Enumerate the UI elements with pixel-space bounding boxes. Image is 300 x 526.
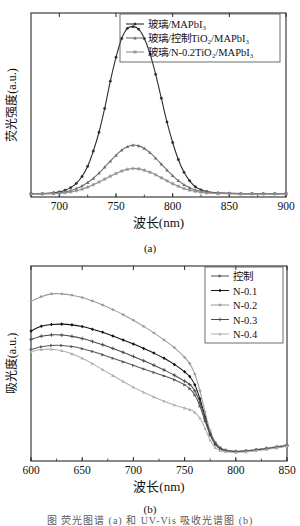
series-marker: [92, 150, 94, 152]
series-marker: [205, 191, 209, 195]
legend-label: N-0.1: [233, 286, 257, 297]
series-marker: [137, 167, 141, 171]
panel-a-caption: (a): [0, 242, 300, 255]
series-marker: [154, 173, 158, 177]
series-marker: [137, 28, 139, 30]
series-marker: [142, 325, 144, 327]
series-marker: [250, 192, 254, 196]
series-marker: [176, 184, 180, 188]
x-tick-label: 650: [74, 464, 92, 476]
series-marker: [122, 314, 124, 316]
legend-label: N-0.4: [233, 329, 258, 340]
series-marker: [29, 192, 33, 196]
series-marker: [171, 182, 175, 186]
series-marker: [109, 80, 111, 82]
series-marker: [61, 293, 63, 295]
x-tick-label: 850: [221, 200, 239, 212]
x-tick-label: 800: [227, 464, 245, 476]
series-marker: [239, 192, 243, 196]
series-marker: [81, 296, 83, 298]
series-marker: [86, 185, 90, 189]
series-marker: [171, 141, 173, 143]
series-marker: [163, 339, 165, 341]
series-marker: [50, 293, 52, 295]
series-marker: [74, 189, 78, 193]
x-tick-label: 700: [125, 464, 143, 476]
series-marker: [131, 167, 135, 171]
series-marker: [199, 190, 203, 194]
legend-marker: [134, 23, 136, 25]
series-marker: [261, 192, 265, 196]
series-marker: [273, 192, 277, 196]
series-marker: [125, 168, 129, 172]
footer-label: 图 荧光图谱 (a) 和 UV-Vis 吸收光谱图 (b): [47, 515, 254, 526]
series-marker: [69, 190, 73, 194]
series-marker: [166, 121, 168, 123]
pl-spectrum-chart: 700750800850900波长(nm)荧光强度(a.u.)玻璃/MAPbI₃…: [0, 0, 300, 242]
legend-label: N-0.2: [233, 300, 257, 311]
series-marker: [91, 300, 93, 302]
x-axis-label: 波长(nm): [133, 215, 184, 230]
series-marker: [103, 177, 107, 181]
page-footer-text: 图 荧光图谱 (a) 和 UV-Vis 吸收光谱图 (b): [0, 515, 300, 526]
x-tick-label: 800: [164, 200, 182, 212]
series-marker: [112, 308, 114, 310]
series-marker: [108, 174, 112, 178]
series-marker: [154, 73, 156, 75]
series-marker: [148, 170, 152, 174]
y-axis-label: 荧光强度(a.u.): [4, 68, 19, 141]
series-marker: [57, 191, 61, 195]
series-marker: [126, 27, 128, 29]
series-marker: [52, 192, 56, 196]
legend-label: 玻璃/控制TiO₂/MAPbI₃: [148, 32, 250, 44]
series-marker: [194, 373, 196, 375]
series-marker: [183, 171, 185, 173]
series-marker: [284, 192, 288, 196]
series-marker: [159, 176, 163, 180]
series-marker: [183, 356, 185, 358]
series-marker: [227, 192, 231, 196]
series-marker: [30, 300, 32, 302]
x-tick-label: 750: [107, 200, 125, 212]
series-marker: [40, 192, 44, 196]
series-marker: [132, 319, 134, 321]
x-tick-label: 850: [278, 464, 296, 476]
series-marker: [71, 294, 73, 296]
series-marker: [86, 165, 88, 167]
series-marker: [165, 179, 169, 183]
figure-panel-b: 600650700750800850波长(nm)吸光度(a.u.)控制N-0.1…: [0, 258, 300, 526]
series-marker: [69, 186, 71, 188]
series-marker: [199, 390, 201, 392]
series-marker: [188, 188, 192, 192]
legend-label: N-0.3: [233, 315, 257, 326]
series-marker: [75, 182, 77, 184]
series-marker: [102, 304, 104, 306]
series-marker: [115, 56, 117, 58]
series-marker: [132, 25, 134, 27]
series-marker: [91, 183, 95, 187]
legend-marker: [133, 50, 137, 54]
series-marker: [189, 362, 191, 364]
series-marker: [40, 295, 42, 297]
series-marker: [120, 37, 122, 39]
series-marker: [188, 180, 190, 182]
series-marker: [80, 187, 84, 191]
series-marker: [193, 190, 197, 194]
series-marker: [63, 191, 67, 195]
legend-label: 玻璃/N-0.2TiO₂/MAPbI₃: [148, 46, 254, 58]
series-marker: [153, 332, 155, 334]
x-tick-label: 700: [51, 200, 69, 212]
series-marker: [173, 347, 175, 349]
x-tick-label: 900: [277, 200, 295, 212]
x-axis-label: 波长(nm): [133, 479, 184, 494]
figure-panel-a: 700750800850900波长(nm)荧光强度(a.u.)玻璃/MAPbI₃…: [0, 0, 300, 258]
uvvis-absorbance-chart: 600650700750800850波长(nm)吸光度(a.u.)控制N-0.1…: [0, 258, 300, 503]
legend-label: 控制: [233, 270, 253, 282]
series-marker: [81, 175, 83, 177]
y-axis-label: 吸光度(a.u.): [4, 333, 19, 394]
legend-marker: [219, 304, 221, 306]
series-marker: [142, 168, 146, 172]
series-marker: [114, 172, 118, 176]
series-marker: [194, 186, 196, 188]
series-marker: [120, 169, 124, 173]
